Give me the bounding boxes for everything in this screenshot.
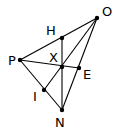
label-X: X: [49, 50, 58, 65]
segments: [20, 18, 97, 110]
label-E: E: [83, 67, 91, 82]
point-E: [77, 66, 81, 70]
geometry-diagram: OHPXEIN: [0, 0, 116, 129]
point-N: [60, 108, 64, 112]
label-H: H: [46, 23, 56, 38]
point-H: [60, 36, 64, 40]
segment-PN: [20, 60, 62, 110]
label-I: I: [33, 89, 37, 104]
points: [18, 16, 99, 112]
point-I: [42, 88, 46, 92]
point-P: [18, 58, 22, 62]
point-O: [95, 16, 99, 20]
segment-ON: [62, 18, 97, 110]
segment-PO: [20, 18, 97, 60]
point-X: [60, 65, 64, 69]
label-P: P: [8, 53, 16, 68]
label-O: O: [102, 4, 112, 19]
label-N: N: [55, 115, 65, 129]
